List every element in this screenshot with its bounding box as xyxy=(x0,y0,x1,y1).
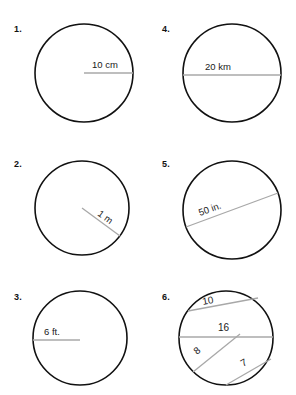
measure-label-1: 10 cm xyxy=(92,59,118,70)
problem-2: 2. 1 m xyxy=(0,140,148,275)
measure-label-3: 6 ft. xyxy=(44,326,60,337)
circle-outline-4 xyxy=(183,24,281,122)
figure-circle-5: 50 in. xyxy=(148,140,296,275)
circle-diagram-4: 20 km xyxy=(148,0,296,140)
measure-label-middle-6: 16 xyxy=(218,322,230,333)
circle-diagram-5: 50 in. xyxy=(148,140,296,275)
problem-1: 1. 10 cm xyxy=(0,0,148,140)
problem-4: 4. 20 km xyxy=(148,0,296,140)
figure-circle-6: 10 16 8 7 xyxy=(148,275,296,395)
figure-circle-3: 6 ft. xyxy=(0,275,148,395)
worksheet-page: 1. 10 cm 2. 1 m 3. 6 ft. xyxy=(0,0,296,395)
circle-diagram-2: 1 m xyxy=(0,140,148,275)
circle-diagram-1: 10 cm xyxy=(0,0,148,140)
circle-diagram-6: 10 16 8 7 xyxy=(148,275,296,395)
problem-3: 3. 6 ft. xyxy=(0,275,148,395)
circle-outline-6 xyxy=(179,291,273,385)
circle-outline-3 xyxy=(33,291,127,385)
figure-circle-4: 20 km xyxy=(148,0,296,140)
measure-label-4: 20 km xyxy=(205,61,231,72)
problem-6: 6. 10 16 8 7 xyxy=(148,275,296,395)
figure-circle-1: 10 cm xyxy=(0,0,148,140)
problem-5: 5. 50 in. xyxy=(148,140,296,275)
circle-diagram-3: 6 ft. xyxy=(0,275,148,395)
figure-circle-2: 1 m xyxy=(0,140,148,275)
